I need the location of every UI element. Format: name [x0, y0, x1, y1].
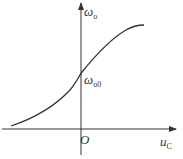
y-axis-label: ωo [84, 5, 97, 21]
x-axis-label: uC [160, 135, 172, 151]
origin-label: O [80, 133, 89, 146]
sigmoid-curve [11, 25, 144, 126]
intercept-label: ωo0 [84, 73, 101, 89]
